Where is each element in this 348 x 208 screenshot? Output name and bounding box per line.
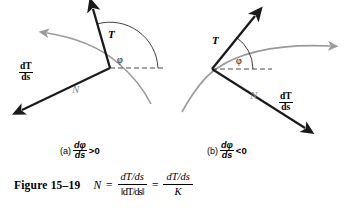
panel-a-caption-paren: (a): [60, 146, 71, 156]
panel-b-angle-label: φ: [236, 56, 242, 66]
panel-a-tangent-label: T: [108, 29, 115, 40]
panel-b-caption-paren: (b): [207, 146, 218, 156]
equation-fraction-two-numerator: dT/ds: [163, 171, 192, 185]
panel-b-caption-denominator: ds: [220, 151, 234, 160]
figure-number: Figure 15–19: [14, 179, 80, 191]
figure-caption: Figure 15–19 N = dT/ds ‖dT/ds‖ = dT/ds K: [14, 171, 193, 198]
panel-a-angle-label: φ: [117, 55, 123, 65]
equation-fraction-one-numerator: dT/ds: [118, 171, 147, 185]
panel-a-caption-denominator: ds: [73, 151, 87, 160]
panel-b-normal-label: N: [250, 90, 257, 101]
equation-fraction-one-denominator: ‖dT/ds‖: [118, 185, 147, 198]
panel-a-derivative-vector: [22, 68, 110, 110]
panel-b-caption-inequality: <0: [236, 145, 247, 156]
panel-a-normal-label: N: [72, 84, 79, 95]
panel-b-caption-fraction: dφ ds: [220, 141, 234, 161]
panel-a-caption-inequality: >0: [89, 145, 100, 156]
equation-fraction-two: dT/ds K: [163, 171, 192, 198]
panel-a-graphics: [22, 9, 166, 110]
equation-fraction-two-denominator: K: [163, 185, 192, 198]
panel-a-caption-fraction: dφ ds: [73, 141, 87, 161]
panel-a-derivative-denominator: ds: [19, 73, 33, 83]
panel-a-angle-arc: [97, 22, 158, 68]
panel-b-tangent-label: T: [212, 35, 219, 46]
panel-b-derivative-denominator: ds: [279, 103, 293, 113]
figure-15-19: T φ N dT ds T φ N dT ds (a) dφ ds >0 (b)…: [0, 0, 348, 208]
panel-a-derivative-label: dT ds: [19, 62, 33, 83]
panel-b-caption: (b) dφ ds <0: [207, 141, 247, 161]
panel-b-curve: [182, 46, 330, 112]
equation-lhs: N: [93, 179, 101, 191]
equation-equals-second: =: [152, 179, 159, 191]
panel-b-derivative-label: dT ds: [279, 92, 293, 113]
panel-a-caption: (a) dφ ds >0: [60, 141, 100, 161]
equation-fraction-one: dT/ds ‖dT/ds‖: [118, 171, 147, 198]
panel-b-graphics: [182, 16, 330, 128]
equation-equals-first: =: [106, 179, 113, 191]
